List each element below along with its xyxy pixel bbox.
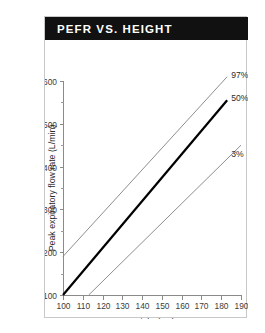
- x-tick-label: 160: [176, 301, 190, 311]
- series-line-97pct: [63, 77, 227, 257]
- series-label-50pct: 50%: [231, 93, 248, 103]
- x-tick-label: 100: [57, 301, 71, 311]
- x-tick-label: 180: [215, 301, 229, 311]
- series-label-97pct: 97%: [231, 70, 248, 80]
- y-tick-label: 600: [45, 77, 57, 87]
- x-tick-label: 190: [235, 301, 248, 311]
- x-tick-label: 140: [136, 301, 150, 311]
- y-axis-title: Peak expiratory flow rate (L/min): [47, 125, 57, 252]
- page-title: PEFR VS. HEIGHT: [45, 23, 173, 35]
- pefr-vs-height-chart: 1002003004005006001001101201301401501601…: [45, 40, 248, 319]
- x-tick-label: 120: [97, 301, 111, 311]
- chart-title-bar: PEFR VS. HEIGHT: [45, 17, 248, 40]
- plot-area: 1002003004005006001001101201301401501601…: [45, 40, 248, 319]
- x-tick-label: 110: [77, 301, 91, 311]
- series-label-3pct: 3%: [231, 149, 244, 159]
- y-tick-label: 100: [45, 291, 57, 301]
- x-tick-label: 130: [116, 301, 130, 311]
- x-tick-label: 150: [156, 301, 170, 311]
- figure-panel: PEFR VS. HEIGHT 100200300400500600100110…: [44, 16, 247, 318]
- x-tick-label: 170: [195, 301, 209, 311]
- series-line-3pct: [89, 145, 241, 295]
- series-line-50pct: [63, 100, 227, 295]
- x-axis-title: Height (cm): [129, 317, 175, 319]
